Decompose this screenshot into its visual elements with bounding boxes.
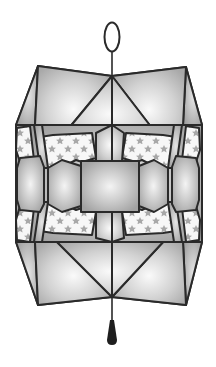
right-side-box xyxy=(172,156,199,212)
hanging-assembly xyxy=(105,23,120,77)
bottom-pyramid xyxy=(16,240,202,305)
left-trapezoid xyxy=(48,160,81,212)
tassel xyxy=(107,320,117,345)
center-square-panel xyxy=(81,161,139,212)
hanging-ring xyxy=(105,23,120,52)
lantern-svg xyxy=(0,0,216,367)
lantern-illustration: Geometric origami-style paper lantern wi… xyxy=(0,0,216,367)
left-side-box xyxy=(17,156,44,212)
tassel-assembly xyxy=(107,297,117,345)
right-trapezoid xyxy=(139,160,168,212)
